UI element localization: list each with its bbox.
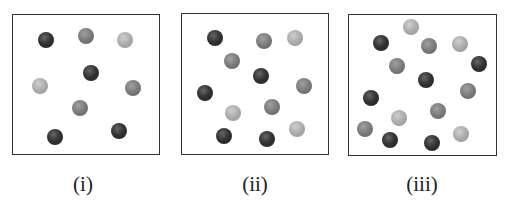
particle-medium xyxy=(460,83,476,99)
panel-label-1: (i) xyxy=(73,172,93,197)
particle-dark xyxy=(38,32,54,48)
particle-medium xyxy=(125,80,141,96)
particle-light xyxy=(225,105,241,121)
particle-dark xyxy=(373,35,389,51)
particle-dark xyxy=(216,128,232,144)
particle-dark xyxy=(207,30,223,46)
particle-dark xyxy=(83,65,99,81)
particle-dark xyxy=(197,85,213,101)
particle-light xyxy=(32,78,48,94)
particle-medium xyxy=(389,58,405,74)
panel-label-3: (iii) xyxy=(406,172,438,197)
particle-light xyxy=(289,121,305,137)
particle-dark xyxy=(382,132,398,148)
particle-light xyxy=(452,36,468,52)
particle-dark xyxy=(424,135,440,151)
panel-label-2: (ii) xyxy=(242,172,268,197)
particle-medium xyxy=(78,28,94,44)
particle-dark xyxy=(363,90,379,106)
particle-medium xyxy=(430,103,446,119)
particle-medium xyxy=(421,38,437,54)
particle-dark xyxy=(253,68,269,84)
particle-medium xyxy=(72,100,88,116)
particle-medium xyxy=(264,99,280,115)
particle-light xyxy=(287,30,303,46)
particle-medium xyxy=(357,121,373,137)
particle-medium xyxy=(296,78,312,94)
particle-light xyxy=(391,110,407,126)
particle-dark xyxy=(47,129,63,145)
particle-light xyxy=(117,32,133,48)
particle-dark xyxy=(259,131,275,147)
particle-dark xyxy=(471,56,487,72)
particle-light xyxy=(403,19,419,35)
particle-dark xyxy=(418,72,434,88)
particle-dark xyxy=(111,123,127,139)
particle-medium xyxy=(224,53,240,69)
particle-light xyxy=(453,126,469,142)
particle-medium xyxy=(256,33,272,49)
